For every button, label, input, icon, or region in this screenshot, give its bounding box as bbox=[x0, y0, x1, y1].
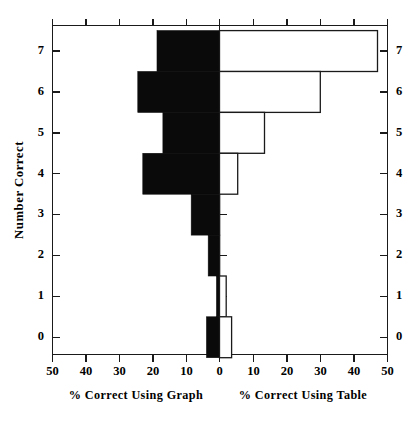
bar-table-5 bbox=[220, 112, 265, 153]
ytick-right-4: 4 bbox=[396, 166, 403, 180]
xtick-left-50: 50 bbox=[46, 364, 59, 378]
bar-table-6 bbox=[220, 72, 321, 113]
ytick-left-4: 4 bbox=[38, 166, 45, 180]
bar-graph-5 bbox=[163, 112, 220, 153]
bar-graph-6 bbox=[138, 72, 220, 113]
chart-figure: 50 40 30 20 10 0 10 20 30 40 50 7 6 5 4 … bbox=[0, 0, 419, 422]
graph-series-bars bbox=[138, 31, 220, 358]
xtick-right-50: 50 bbox=[381, 364, 394, 378]
x-tick-labels: 50 40 30 20 10 0 10 20 30 40 50 bbox=[46, 364, 394, 378]
ytick-left-5: 5 bbox=[38, 125, 44, 139]
y-tick-labels-left: 7 6 5 4 3 2 1 0 bbox=[38, 43, 45, 343]
bar-graph-2 bbox=[208, 235, 220, 276]
bar-graph-3 bbox=[191, 194, 220, 235]
ytick-right-7: 7 bbox=[396, 43, 402, 57]
ytick-left-3: 3 bbox=[38, 206, 44, 220]
bar-graph-4 bbox=[143, 153, 220, 194]
xtick-right-10: 10 bbox=[247, 364, 260, 378]
ytick-right-6: 6 bbox=[396, 84, 402, 98]
xtick-right-30: 30 bbox=[314, 364, 327, 378]
xtick-left-30: 30 bbox=[113, 364, 126, 378]
bar-table-0 bbox=[220, 317, 232, 358]
xtick-right-40: 40 bbox=[348, 364, 361, 378]
back-to-back-bar-chart: 50 40 30 20 10 0 10 20 30 40 50 7 6 5 4 … bbox=[0, 0, 419, 422]
xtick-center-0: 0 bbox=[216, 364, 222, 378]
table-series-bars bbox=[220, 31, 378, 358]
xtick-left-10: 10 bbox=[180, 364, 193, 378]
xtick-left-20: 20 bbox=[147, 364, 160, 378]
xtick-right-20: 20 bbox=[281, 364, 294, 378]
xtick-left-40: 40 bbox=[80, 364, 93, 378]
ytick-right-0: 0 bbox=[396, 329, 402, 343]
y-tick-labels-right: 7 6 5 4 3 2 1 0 bbox=[396, 43, 403, 343]
ytick-left-1: 1 bbox=[38, 288, 44, 302]
xaxis-title-graph: % Correct Using Graph bbox=[69, 388, 203, 402]
bar-table-7 bbox=[220, 31, 378, 72]
bar-table-4 bbox=[220, 153, 238, 194]
bar-table-1 bbox=[220, 276, 227, 317]
ytick-right-5: 5 bbox=[396, 125, 402, 139]
ytick-right-3: 3 bbox=[396, 206, 402, 220]
ytick-right-2: 2 bbox=[396, 247, 402, 261]
xaxis-title-table: % Correct Using Table bbox=[239, 388, 368, 402]
x-axis-ticks-top bbox=[53, 19, 388, 25]
ytick-left-7: 7 bbox=[38, 43, 44, 57]
ytick-left-0: 0 bbox=[38, 329, 44, 343]
yaxis-title: Number Correct bbox=[12, 141, 26, 239]
ytick-left-6: 6 bbox=[38, 84, 44, 98]
ytick-left-2: 2 bbox=[38, 247, 44, 261]
bar-graph-7 bbox=[157, 31, 220, 72]
ytick-right-1: 1 bbox=[396, 288, 402, 302]
bar-graph-0 bbox=[207, 317, 221, 358]
